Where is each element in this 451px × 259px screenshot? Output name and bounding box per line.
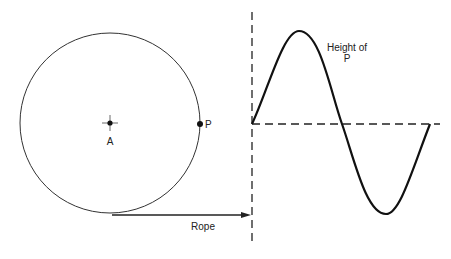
rope-arrow (112, 212, 251, 218)
rope-label: Rope (188, 221, 218, 232)
center-point-a-icon (102, 115, 118, 131)
height-of-p-label: Height of P (322, 42, 372, 64)
height-label-line1: Height of (322, 42, 372, 53)
diagram-canvas (0, 0, 451, 259)
center-label-a: A (104, 136, 116, 147)
height-label-line2: P (322, 53, 372, 64)
point-p-dot (197, 121, 203, 127)
point-label-p: P (205, 119, 212, 130)
